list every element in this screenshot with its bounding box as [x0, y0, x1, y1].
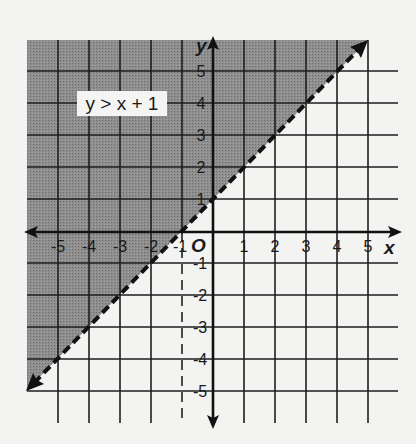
graph: -5 -4 -3 -2 -1 1 2 3 4 5 5 4 3 2 1 -1 -2…: [0, 0, 416, 444]
y-tick: -4: [193, 351, 207, 368]
x-tick: -1: [173, 238, 187, 255]
inequality-label: y > x + 1: [77, 91, 167, 116]
y-tick: 5: [197, 63, 206, 80]
x-tick: -4: [82, 238, 96, 255]
y-tick: -3: [193, 319, 207, 336]
inequality-text: y > x + 1: [86, 93, 159, 114]
y-tick: -5: [193, 383, 207, 400]
x-tick: 2: [271, 238, 280, 255]
x-tick: 5: [364, 238, 373, 255]
x-axis-label: x: [383, 237, 396, 258]
y-axis-label: y: [195, 35, 208, 56]
y-tick: 3: [197, 127, 206, 144]
x-tick-labels: -5 -4 -3 -2 -1 1 2 3 4 5: [40, 236, 373, 256]
x-tick: 1: [240, 238, 249, 255]
x-tick: 4: [333, 238, 342, 255]
y-tick: -2: [193, 287, 207, 304]
y-tick: 4: [197, 95, 206, 112]
y-tick: 2: [197, 159, 206, 176]
x-tick: -2: [144, 238, 158, 255]
x-tick: -5: [51, 238, 65, 255]
y-tick: 1: [197, 191, 206, 208]
x-tick: 3: [302, 238, 311, 255]
x-tick: -3: [113, 238, 127, 255]
origin-label: O: [191, 235, 206, 256]
y-tick: -1: [193, 255, 207, 272]
